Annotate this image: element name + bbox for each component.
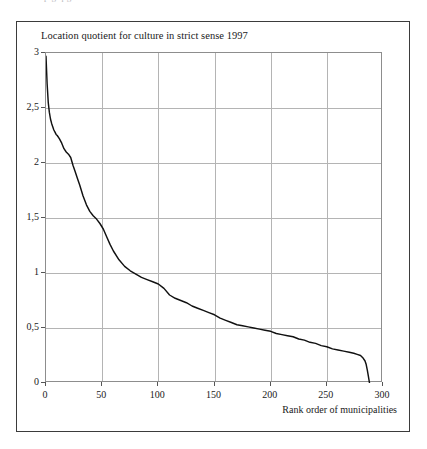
y-tick-mark	[41, 272, 45, 273]
data-series-line	[46, 53, 383, 383]
y-tick-mark	[41, 52, 45, 53]
plot-area	[45, 52, 382, 382]
y-tick-label: 1	[5, 267, 39, 277]
x-tick-label: 50	[81, 390, 121, 400]
y-tick-label: 2,5	[5, 102, 39, 112]
x-tick-mark	[157, 382, 158, 386]
chart-title: Location quotient for culture in strict …	[41, 30, 248, 42]
x-axis-label: Rank order of municipalities	[282, 404, 397, 415]
y-tick-label: 1,5	[5, 212, 39, 222]
x-tick-label: 150	[194, 390, 234, 400]
y-tick-mark	[41, 217, 45, 218]
x-tick-label: 250	[306, 390, 346, 400]
x-tick-mark	[214, 382, 215, 386]
y-tick-mark	[41, 107, 45, 108]
series-path-culture-lq	[46, 56, 370, 383]
x-tick-mark	[270, 382, 271, 386]
clipped-header-text-value: p g q g	[44, 0, 72, 2]
clipped-header-text: p g q g	[0, 0, 427, 10]
x-tick-label: 0	[25, 390, 65, 400]
x-tick-mark	[101, 382, 102, 386]
x-tick-mark	[45, 382, 46, 386]
y-tick-mark	[41, 162, 45, 163]
x-tick-label: 100	[137, 390, 177, 400]
y-tick-label: 3	[5, 47, 39, 57]
x-tick-mark	[326, 382, 327, 386]
y-tick-mark	[41, 327, 45, 328]
x-tick-label: 200	[250, 390, 290, 400]
x-tick-label: 300	[362, 390, 402, 400]
y-tick-label: 2	[5, 157, 39, 167]
y-tick-label: 0	[5, 377, 39, 387]
x-tick-mark	[382, 382, 383, 386]
y-tick-label: 0,5	[5, 322, 39, 332]
